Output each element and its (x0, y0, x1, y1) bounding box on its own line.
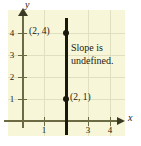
slope-annotation-line-2: undefined. (71, 55, 114, 68)
data-point-2-4 (63, 30, 69, 36)
x-tick-label-4: 4 (104, 125, 116, 135)
y-tick-label-4: 4 (6, 28, 18, 38)
y-tick-mark-2 (18, 77, 27, 78)
x-axis-label: x (128, 112, 132, 123)
x-tick-label-1: 1 (38, 125, 50, 135)
x-axis (4, 120, 118, 122)
x-axis-arrow-icon (117, 117, 125, 125)
data-point-label-upper: (2, 4) (29, 26, 50, 36)
y-tick-mark-1 (18, 99, 27, 100)
graph-figure: y x 4 3 2 1 1 3 4 (2, 4) (2, 1) Slope is… (0, 0, 141, 146)
y-tick-label-3: 3 (6, 50, 18, 60)
y-tick-label-1: 1 (6, 94, 18, 104)
y-tick-mark-4 (18, 33, 27, 34)
data-point-label-lower: (2, 1) (70, 92, 91, 102)
data-point-2-1 (63, 96, 69, 102)
y-axis-label: y (25, 0, 29, 10)
y-tick-mark-3 (18, 55, 27, 56)
slope-annotation-line-1: Slope is (71, 42, 114, 55)
x-tick-label-3: 3 (82, 125, 94, 135)
y-axis (22, 12, 24, 128)
y-tick-label-2: 2 (6, 72, 18, 82)
slope-annotation: Slope is undefined. (71, 42, 114, 67)
